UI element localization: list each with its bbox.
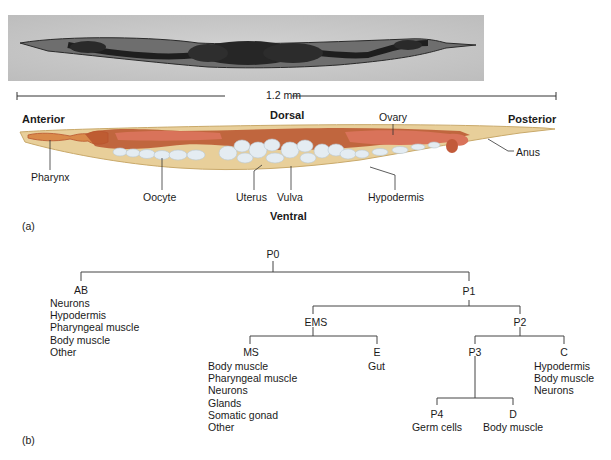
- node-p0: P0: [267, 248, 280, 260]
- node-ems: EMS: [305, 316, 328, 328]
- fate-item: Neurons: [208, 384, 297, 396]
- fate-item: Somatic gonad: [208, 409, 297, 421]
- fate-item: Germ cells: [412, 421, 462, 433]
- node-p4: P4: [431, 408, 444, 420]
- fate-list-c: Hypodermis Body muscle Neurons: [534, 360, 594, 397]
- fate-item: Other: [50, 346, 139, 358]
- fate-item: Gut: [368, 360, 385, 372]
- node-p2: P2: [514, 316, 527, 328]
- fate-item: Pharyngeal muscle: [208, 372, 297, 384]
- fate-item: Body muscle: [208, 360, 297, 372]
- fate-list-ms: Body muscle Pharyngeal muscle Neurons Gl…: [208, 360, 297, 433]
- fate-list-ab: Neurons Hypodermis Pharyngeal muscle Bod…: [50, 297, 139, 358]
- fate-list-d: Body muscle: [483, 421, 543, 433]
- fate-item: Body muscle: [483, 421, 543, 433]
- fate-item: Glands: [208, 397, 297, 409]
- fate-item: Other: [208, 421, 297, 433]
- fate-item: Body muscle: [534, 372, 594, 384]
- node-e: E: [373, 346, 380, 358]
- lineage-tree-lines: [0, 0, 611, 460]
- fate-item: Neurons: [50, 297, 139, 309]
- node-c: C: [560, 346, 568, 358]
- node-ab: AB: [74, 284, 88, 296]
- fate-item: Hypodermis: [534, 360, 594, 372]
- node-d: D: [509, 408, 517, 420]
- fate-item: Hypodermis: [50, 309, 139, 321]
- node-p1: P1: [463, 285, 476, 297]
- fate-list-p4: Germ cells: [412, 421, 462, 433]
- node-ms: MS: [243, 346, 259, 358]
- fate-item: Neurons: [534, 384, 594, 396]
- panel-b-label: (b): [22, 434, 35, 446]
- fate-item: Pharyngeal muscle: [50, 321, 139, 333]
- node-p3: P3: [469, 346, 482, 358]
- fate-item: Body muscle: [50, 334, 139, 346]
- fate-list-e: Gut: [368, 360, 385, 372]
